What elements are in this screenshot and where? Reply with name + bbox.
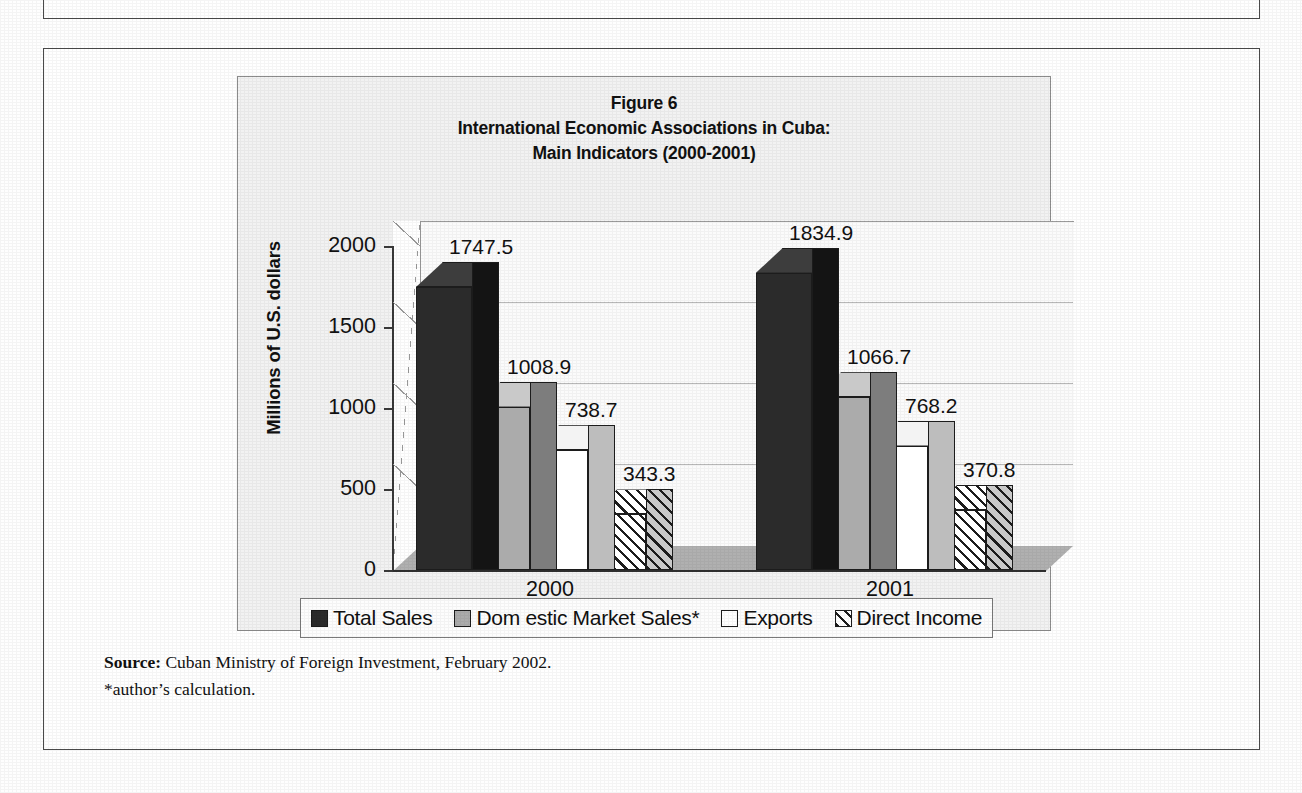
page-root: Figure 6 International Economic Associat… (0, 0, 1302, 793)
y-tick-label-2000: 2000 (276, 233, 376, 258)
figure-frame: Figure 6 International Economic Associat… (43, 48, 1260, 750)
legend-label-direct-income: Direct Income (857, 606, 983, 630)
bar-side (870, 372, 897, 570)
source-line: Source: Cuban Ministry of Foreign Invest… (104, 649, 551, 676)
bar-side (986, 485, 1013, 570)
y-tick-2000 (384, 246, 393, 248)
data-label-2001-total-sales: 1834.9 (789, 221, 853, 245)
data-label-2001-exports: 768.2 (905, 394, 958, 418)
bar-side (530, 382, 557, 570)
legend-swatch-domestic-market-sales (454, 610, 471, 627)
bar-side (472, 262, 499, 570)
chart-legend: Total Sales Dom estic Market Sales* Expo… (300, 598, 993, 638)
bar-side (812, 248, 839, 570)
legend-item-direct-income[interactable]: Direct Income (835, 606, 983, 630)
y-tick-1000 (384, 408, 393, 410)
data-label-2000-total-sales: 1747.5 (449, 235, 513, 259)
data-label-2000-domestic-market-sales: 1008.9 (507, 355, 571, 379)
source-label: Source: (104, 652, 161, 672)
bar-2001-total-sales[interactable] (756, 273, 812, 570)
data-label-2001-domestic-market-sales: 1066.7 (847, 345, 911, 369)
y-tick-label-500: 500 (276, 476, 376, 501)
legend-swatch-exports (721, 610, 738, 627)
plot-area: Millions of U.S. dollars (238, 77, 1050, 630)
y-tick-label-0: 0 (276, 557, 376, 582)
source-text: Cuban Ministry of Foreign Investment, Fe… (161, 652, 551, 672)
previous-content-frame (43, 0, 1260, 19)
y-tick-label-1000: 1000 (276, 395, 376, 420)
chart-container: Figure 6 International Economic Associat… (237, 76, 1051, 631)
bar-face (416, 287, 472, 570)
source-note: Source: Cuban Ministry of Foreign Invest… (104, 649, 551, 703)
x-axis-line (393, 570, 1046, 572)
legend-label-exports: Exports (743, 606, 812, 630)
legend-label-domestic-market-sales: Dom estic Market Sales* (476, 606, 699, 630)
data-label-2000-exports: 738.7 (565, 398, 618, 422)
legend-item-exports[interactable]: Exports (721, 606, 812, 630)
y-tick-500 (384, 489, 393, 491)
legend-item-total-sales[interactable]: Total Sales (311, 606, 432, 630)
bar-face (756, 273, 812, 570)
legend-swatch-direct-income (835, 610, 852, 627)
legend-label-total-sales: Total Sales (333, 606, 432, 630)
gridline-1500 (420, 302, 1073, 303)
bar-side (646, 489, 673, 570)
legend-swatch-total-sales (311, 610, 328, 627)
legend-item-domestic-market-sales[interactable]: Dom estic Market Sales* (454, 606, 699, 630)
source-footnote: *author’s calculation. (104, 676, 551, 703)
data-label-2000-direct-income: 343.3 (623, 462, 676, 486)
y-tick-0 (384, 570, 393, 572)
y-tick-label-1500: 1500 (276, 314, 376, 339)
bar-side (588, 425, 615, 570)
y-tick-1500 (384, 327, 393, 329)
bar-side (928, 421, 955, 570)
data-label-2001-direct-income: 370.8 (963, 458, 1016, 482)
bar-2000-total-sales[interactable] (416, 287, 472, 570)
y-tick-connector-2000 (393, 221, 421, 247)
